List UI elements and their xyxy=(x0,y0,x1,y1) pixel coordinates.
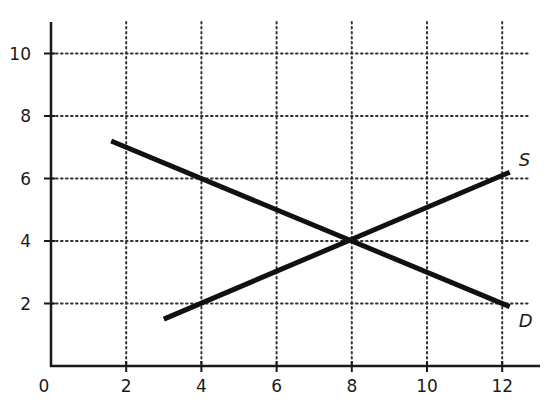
x-tick-label-8: 8 xyxy=(346,376,357,396)
curve-d xyxy=(111,141,510,307)
axes xyxy=(50,22,540,367)
supply-demand-chart: 024681012 246810 DS xyxy=(0,0,550,413)
curve-s xyxy=(164,172,510,319)
curve-label-s: S xyxy=(519,149,530,170)
curve-label-d: D xyxy=(519,310,533,331)
x-tick-labels: 024681012 xyxy=(39,376,513,396)
y-tick-labels: 246810 xyxy=(9,44,31,314)
x-tick-label-10: 10 xyxy=(416,376,438,396)
data-series xyxy=(111,141,510,319)
x-tick-label-12: 12 xyxy=(491,376,513,396)
x-tick-label-2: 2 xyxy=(121,376,132,396)
y-tick-label-2: 2 xyxy=(20,294,31,314)
y-tick-label-4: 4 xyxy=(20,231,31,251)
y-tick-label-10: 10 xyxy=(9,44,31,64)
y-tick-label-6: 6 xyxy=(20,169,31,189)
y-tick-label-8: 8 xyxy=(20,106,31,126)
x-tick-label-4: 4 xyxy=(196,376,207,396)
x-tick-label-6: 6 xyxy=(271,376,282,396)
axis-ticks xyxy=(44,54,502,373)
x-tick-label-0: 0 xyxy=(39,376,50,396)
